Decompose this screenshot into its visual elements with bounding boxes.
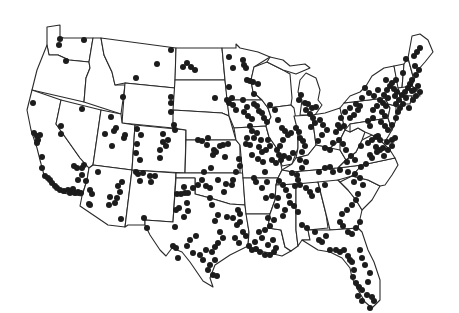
location-marker xyxy=(341,123,347,129)
location-marker xyxy=(320,122,326,128)
location-marker xyxy=(119,179,125,185)
location-marker xyxy=(355,293,361,299)
location-marker xyxy=(190,185,196,191)
location-marker xyxy=(226,54,232,60)
location-marker xyxy=(303,107,309,113)
location-marker xyxy=(160,131,166,137)
location-marker xyxy=(308,124,314,130)
location-marker xyxy=(212,218,218,224)
location-marker xyxy=(366,90,372,96)
location-marker xyxy=(351,179,357,185)
location-marker xyxy=(118,216,124,222)
location-marker xyxy=(290,150,296,156)
location-marker xyxy=(112,200,118,206)
location-marker xyxy=(371,298,377,304)
location-marker xyxy=(233,107,239,113)
location-marker xyxy=(237,219,243,225)
location-marker xyxy=(265,242,271,248)
location-marker xyxy=(240,57,246,63)
location-marker xyxy=(192,67,198,73)
location-marker xyxy=(134,126,140,132)
location-marker xyxy=(141,215,147,221)
location-marker xyxy=(342,109,348,115)
location-marker xyxy=(249,152,255,158)
location-marker xyxy=(207,195,213,201)
location-marker xyxy=(375,87,381,93)
location-marker xyxy=(75,177,81,183)
location-marker xyxy=(83,178,89,184)
location-marker xyxy=(296,129,302,135)
location-marker xyxy=(319,132,325,138)
location-marker xyxy=(137,178,143,184)
location-marker xyxy=(212,257,218,263)
location-marker xyxy=(370,115,376,121)
location-marker xyxy=(275,195,281,201)
location-marker xyxy=(270,237,276,243)
location-marker xyxy=(212,244,218,250)
location-marker xyxy=(256,144,262,150)
location-marker xyxy=(362,262,368,268)
location-marker xyxy=(223,181,229,187)
location-marker xyxy=(201,169,207,175)
location-marker xyxy=(244,135,250,141)
location-marker xyxy=(243,233,249,239)
location-marker xyxy=(255,81,261,87)
location-marker xyxy=(312,229,318,235)
location-marker xyxy=(236,156,242,162)
location-marker xyxy=(403,56,409,62)
location-marker xyxy=(363,161,369,167)
location-marker xyxy=(173,245,179,251)
location-marker xyxy=(357,175,363,181)
location-marker xyxy=(95,169,101,175)
location-marker xyxy=(230,215,236,221)
location-marker xyxy=(56,42,62,48)
location-marker xyxy=(267,143,273,149)
location-marker xyxy=(322,165,328,171)
location-marker xyxy=(157,147,163,153)
location-marker xyxy=(107,194,113,200)
location-marker xyxy=(371,93,377,99)
location-marker xyxy=(79,106,85,112)
location-marker xyxy=(197,252,203,258)
location-marker xyxy=(259,185,265,191)
location-marker xyxy=(330,140,336,146)
location-marker xyxy=(79,172,85,178)
location-marker xyxy=(367,270,373,276)
state-north-dakota xyxy=(175,48,225,80)
location-marker xyxy=(367,305,373,311)
location-marker xyxy=(280,182,286,188)
location-marker xyxy=(209,249,215,255)
location-marker xyxy=(185,190,191,196)
location-marker xyxy=(283,187,289,193)
location-marker xyxy=(203,247,209,253)
location-marker xyxy=(357,219,363,225)
location-marker xyxy=(78,190,84,196)
location-marker xyxy=(87,202,93,208)
location-marker xyxy=(63,58,69,64)
location-marker xyxy=(237,163,243,169)
location-marker xyxy=(204,142,210,148)
location-marker xyxy=(135,171,141,177)
location-marker xyxy=(157,155,163,161)
state-new-york xyxy=(344,66,402,106)
location-marker xyxy=(251,91,257,97)
location-marker xyxy=(374,103,380,109)
location-marker xyxy=(121,135,127,141)
location-marker xyxy=(385,127,391,133)
location-marker xyxy=(168,109,174,115)
location-marker xyxy=(304,225,310,231)
location-marker xyxy=(140,170,146,176)
location-marker xyxy=(144,225,150,231)
location-marker xyxy=(309,193,315,199)
location-marker xyxy=(272,107,278,113)
location-marker xyxy=(205,135,211,141)
location-marker xyxy=(230,65,236,71)
location-marker xyxy=(352,171,358,177)
location-marker xyxy=(172,224,178,230)
location-marker xyxy=(344,159,350,165)
location-marker xyxy=(58,131,64,137)
location-marker xyxy=(138,132,144,138)
location-marker xyxy=(117,189,123,195)
location-marker xyxy=(225,141,231,147)
location-marker xyxy=(385,95,391,101)
